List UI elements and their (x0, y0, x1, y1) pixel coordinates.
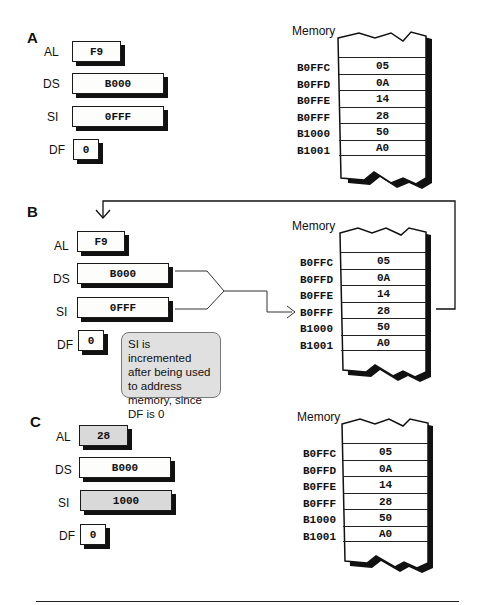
memory-cell: 28 (343, 493, 428, 509)
memory-address: B0FFE (303, 481, 336, 493)
bottom-divider (36, 601, 459, 602)
memory-cell: 50 (343, 509, 428, 526)
memory-address: B0FFF (303, 498, 336, 510)
memory-cell: 0A (343, 460, 428, 476)
memory-address: B0FFD (303, 465, 336, 477)
memory-cell: 05 (343, 443, 428, 460)
memory-address: B1001 (303, 531, 336, 543)
memory-cell: A0 (343, 526, 428, 542)
memory-address: B0FFC (303, 448, 336, 460)
memory-cell: 14 (343, 476, 428, 493)
memory-address: B1000 (303, 514, 336, 526)
